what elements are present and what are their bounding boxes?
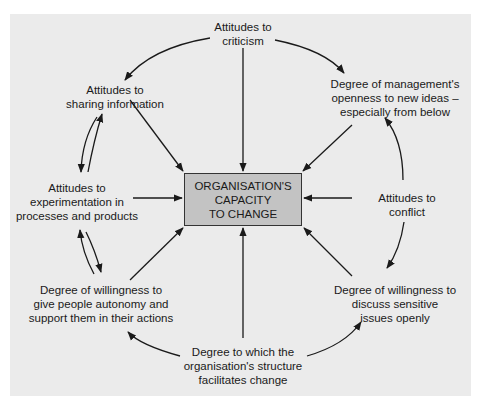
arrow-management-to-center (303, 125, 352, 171)
arrow-conflict-to-management (385, 118, 403, 180)
center-label-line: CAPACITY (215, 193, 272, 207)
node-label-line: Attitudes to (55, 83, 175, 97)
arrow-discuss-to-center (304, 228, 352, 276)
node-label-line: Degree of willingness to (325, 283, 465, 297)
node-label-line: conflict (362, 205, 452, 219)
center-label-line: TO CHANGE (209, 207, 277, 221)
node-label-line: criticism (198, 34, 288, 48)
node-label-line: Attitudes to (362, 191, 452, 205)
node-label-line: especially from below (325, 105, 465, 119)
node-attitudes-to-conflict: Attitudes to conflict (362, 191, 452, 219)
center-label-line: ORGANISATION'S (194, 179, 291, 193)
arrow-structure-to-discuss (307, 322, 361, 356)
node-label-line: give people autonomy and (22, 297, 180, 311)
node-label-line: support them in their actions (22, 311, 180, 325)
node-label-line: Degree to which the (178, 345, 308, 359)
node-management-openness: Degree of management's openness to new i… (325, 77, 465, 119)
arrow-autonomy-to-center (130, 228, 183, 280)
center-node-capacity-to-change: ORGANISATION'S CAPACITY TO CHANGE (184, 173, 302, 226)
node-label-line: discuss sensitive (325, 297, 465, 311)
arrow-structure-to-autonomy (128, 332, 180, 356)
arrow-experimentation-to-sharing (88, 114, 102, 172)
node-willingness-autonomy: Degree of willingness to give people aut… (22, 283, 180, 325)
node-label-line: Attitudes to (12, 181, 142, 195)
node-attitudes-to-experimentation: Attitudes to experimentation in processe… (12, 181, 142, 223)
node-label-line: processes and products (12, 209, 142, 223)
node-label-line: facilitates change (178, 373, 308, 387)
node-willingness-discuss: Degree of willingness to discuss sensiti… (325, 283, 465, 325)
node-label-line: Degree of management's (325, 77, 465, 91)
node-structure-facilitates-change: Degree to which the organisation's struc… (178, 345, 308, 387)
node-label-line: openness to new ideas – (325, 91, 465, 105)
node-label-line: Degree of willingness to (22, 283, 180, 297)
node-label-line: sharing information (55, 97, 175, 111)
node-attitudes-to-criticism: Attitudes to criticism (198, 20, 288, 48)
node-attitudes-to-sharing-information: Attitudes to sharing information (55, 83, 175, 111)
node-label-line: Attitudes to (198, 20, 288, 34)
node-label-line: experimentation in (12, 195, 142, 209)
node-label-line: organisation's structure (178, 359, 308, 373)
arrow-autonomy-to-experimentation (80, 230, 94, 274)
arrow-conflict-to-discuss (387, 222, 404, 268)
arrow-experimentation-to-autonomy (86, 232, 101, 272)
node-label-line: issues openly (325, 311, 465, 325)
